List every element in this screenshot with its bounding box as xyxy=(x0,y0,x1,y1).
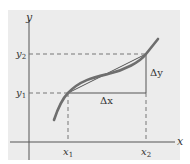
panel-background xyxy=(8,10,180,160)
secant-diagram: y x y2 y1 x1 x2 Δx Δy xyxy=(0,0,190,164)
y-axis-label: y xyxy=(25,11,33,24)
x-axis-label: x xyxy=(177,135,184,148)
delta-y-label: Δy xyxy=(150,67,163,78)
delta-x-label: Δx xyxy=(100,95,113,106)
